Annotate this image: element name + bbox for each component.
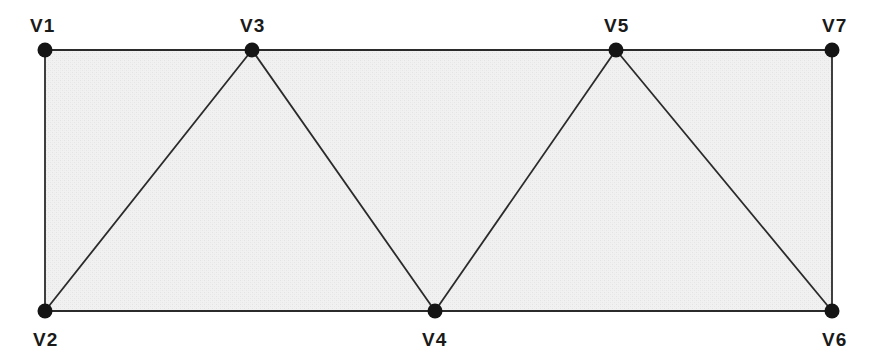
vertex-node-v6 — [825, 304, 840, 319]
vertex-label-v5: V5 — [604, 16, 630, 35]
vertex-node-v3 — [245, 43, 260, 58]
shaded-interior-polygon — [45, 50, 832, 311]
truss-graphics — [0, 0, 880, 364]
vertex-node-v4 — [428, 304, 443, 319]
vertex-node-v1 — [38, 43, 53, 58]
vertex-label-v1: V1 — [30, 16, 56, 35]
vertex-label-v2: V2 — [33, 330, 59, 349]
shaded-region — [45, 50, 832, 311]
vertex-node-v7 — [825, 43, 840, 58]
vertex-label-v4: V4 — [422, 330, 448, 349]
vertex-label-v3: V3 — [240, 16, 266, 35]
vertex-node-v5 — [609, 43, 624, 58]
vertex-node-v2 — [38, 304, 53, 319]
vertex-label-v7: V7 — [822, 16, 848, 35]
truss-diagram-figure: V1V2V3V4V5V6V7 — [0, 0, 880, 364]
vertex-label-v6: V6 — [822, 330, 848, 349]
